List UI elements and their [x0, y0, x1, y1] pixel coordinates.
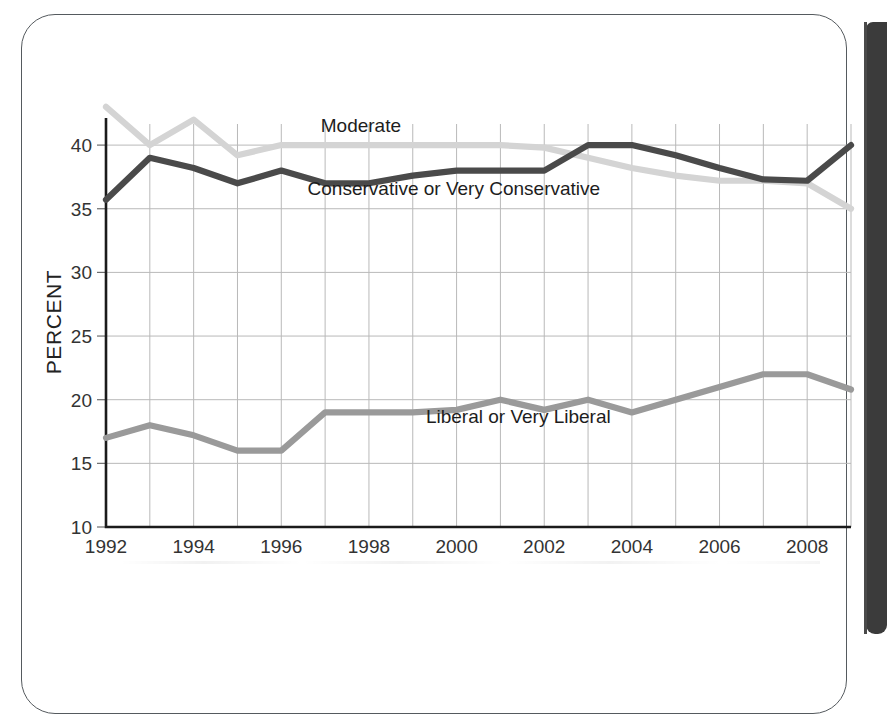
series-lines: [106, 107, 851, 451]
series-label-liberal: Liberal or Very Liberal: [426, 406, 611, 427]
x-tick-label: 1994: [173, 536, 216, 557]
y-axis-title: PERCENT: [42, 222, 66, 422]
y-tick-label: 30: [71, 262, 92, 283]
y-tick-label: 10: [71, 517, 92, 538]
x-tick-label: 1998: [348, 536, 390, 557]
x-tick-label: 2002: [523, 536, 565, 557]
x-tick-label: 1996: [260, 536, 302, 557]
y-tick-labels: 10152025303540: [71, 135, 92, 538]
x-tick-labels: 199219941996199820002002200420062008: [85, 536, 828, 557]
series-label-moderate: Moderate: [321, 115, 401, 136]
x-tick-label: 2000: [435, 536, 477, 557]
series-inline-labels: ModerateConservative or Very Conservativ…: [308, 115, 611, 426]
series-label-conservative: Conservative or Very Conservative: [308, 178, 601, 199]
y-tick-label: 25: [71, 326, 92, 347]
x-tick-label: 1992: [85, 536, 127, 557]
y-tick-label: 20: [71, 390, 92, 411]
y-tick-label: 35: [71, 199, 92, 220]
x-tick-label: 2008: [786, 536, 828, 557]
x-tick-label: 2006: [698, 536, 740, 557]
y-tick-label: 15: [71, 453, 92, 474]
x-tick-label: 2004: [611, 536, 654, 557]
y-tick-label: 40: [71, 135, 92, 156]
